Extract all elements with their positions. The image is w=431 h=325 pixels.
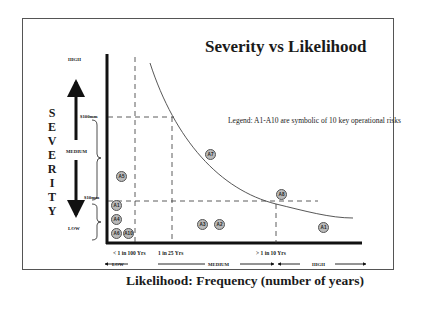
medium-brace xyxy=(92,120,101,200)
risk-marker-a7: A7 xyxy=(205,149,216,160)
x-tick-100yrs: < 1 in 100 Yrs xyxy=(113,250,146,256)
x-tick-25yrs: 1 in 25 Yrs xyxy=(158,250,183,256)
likelihood-medium-label: MEDIUM xyxy=(208,262,229,267)
likelihood-high-label: HIGH xyxy=(312,262,325,267)
risk-marker-a4: A4 xyxy=(111,214,122,225)
severity-letter: T xyxy=(46,190,58,205)
severity-letter: R xyxy=(46,162,58,177)
slide-title: Severity vs Likelihood xyxy=(205,37,367,57)
risk-marker-a5: A5 xyxy=(116,171,127,182)
risk-marker-a3: A3 xyxy=(197,219,208,230)
risk-marker-a2: A2 xyxy=(214,219,225,230)
severity-letter: V xyxy=(46,134,58,149)
severity-letter: Y xyxy=(46,204,58,219)
severity-medium-label: MEDIUM xyxy=(66,149,87,154)
risk-marker-a10: A10 xyxy=(123,228,134,239)
risk-marker-a8: A8 xyxy=(276,189,287,200)
severity-high-label: HIGH xyxy=(68,57,81,62)
severity-letter: S xyxy=(46,106,58,121)
risk-frontier-curve xyxy=(150,63,353,218)
likelihood-low-label: LOW xyxy=(112,262,124,267)
x-axis-title: Likelihood: Frequency (number of years) xyxy=(126,273,364,289)
threshold-100mm: $100mm xyxy=(80,114,98,119)
low-brace xyxy=(92,204,101,240)
risk-marker-a6: A6 xyxy=(111,228,122,239)
severity-letter: I xyxy=(46,176,58,191)
severity-letter: E xyxy=(46,148,58,163)
threshold-10mm: $10mm xyxy=(84,195,99,200)
x-tick-10yrs: > 1 in 10 Yrs xyxy=(256,250,286,256)
risk-marker-a1: A1 xyxy=(111,200,122,211)
risk-marker-a1-high: A1 xyxy=(318,222,329,233)
severity-letter: E xyxy=(46,120,58,135)
legend-text: Legend: A1-A10 are symbolic of 10 key op… xyxy=(228,116,401,125)
severity-low-label: LOW xyxy=(68,226,80,231)
